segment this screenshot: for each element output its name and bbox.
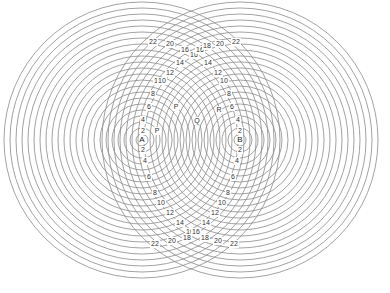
path-number-label: 4 xyxy=(235,157,239,164)
path-number-label: 4 xyxy=(143,157,147,164)
point-label: Q xyxy=(194,117,200,125)
path-number-label: 12 xyxy=(166,69,174,76)
path-number-label: 14 xyxy=(176,219,184,226)
path-number-label: 8 xyxy=(151,90,155,97)
source-label-b: B xyxy=(237,135,242,144)
path-number-label: 10 xyxy=(157,199,165,206)
path-number-label: 18 xyxy=(203,42,211,49)
path-number-label: 16 xyxy=(192,228,200,235)
path-number-label: 22 xyxy=(151,240,159,247)
path-number-label: 10 xyxy=(220,77,228,84)
path-number-label: 10 xyxy=(158,77,166,84)
path-number-label: 6 xyxy=(230,103,234,110)
path-number-label: 8 xyxy=(153,189,157,196)
path-number-label: 20 xyxy=(214,237,222,244)
interference-diagram: 2468101012141616202224681012141618202224… xyxy=(0,0,390,293)
path-number-label: 4 xyxy=(141,116,145,123)
path-number-label: 22 xyxy=(232,38,240,45)
path-number-label: 14 xyxy=(202,219,210,226)
path-number-label: 20 xyxy=(168,237,176,244)
path-number-label: 18 xyxy=(201,234,209,241)
path-number-label: 12 xyxy=(214,69,222,76)
path-number-label: 12 xyxy=(211,209,219,216)
point-label: P xyxy=(155,127,160,134)
point-label: R xyxy=(216,106,221,113)
path-number-label: 2 xyxy=(141,127,145,134)
path-number-label: 8 xyxy=(226,189,230,196)
path-number-label: 22 xyxy=(149,38,157,45)
path-number-label: 6 xyxy=(231,173,235,180)
path-number-label: 20 xyxy=(166,40,174,47)
path-number-label: 6 xyxy=(147,173,151,180)
source-label-a: A xyxy=(139,135,145,144)
path-number-label: 4 xyxy=(236,116,240,123)
path-number-label: 18 xyxy=(183,234,191,241)
diagram-canvas: 2468101012141616202224681012141618202224… xyxy=(0,0,390,293)
point-label: P xyxy=(174,103,179,110)
path-number-label: 14 xyxy=(176,59,184,66)
path-number-label: 12 xyxy=(166,209,174,216)
path-number-label: 2 xyxy=(141,146,145,153)
path-number-label: 16 xyxy=(181,46,189,53)
path-number-label: 6 xyxy=(147,103,151,110)
path-number-label: 10 xyxy=(218,199,226,206)
path-number-label: 20 xyxy=(216,40,224,47)
path-number-label: 2 xyxy=(238,127,242,134)
path-number-label: 8 xyxy=(227,90,231,97)
path-number-label: 2 xyxy=(238,146,242,153)
path-number-label: 14 xyxy=(204,59,212,66)
path-number-label: 22 xyxy=(230,240,238,247)
